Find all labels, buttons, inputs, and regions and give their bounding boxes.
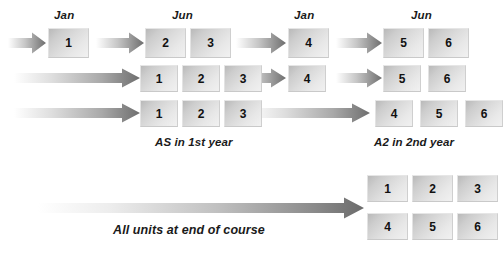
unit-box: 2 xyxy=(182,100,220,127)
unit-box: 4 xyxy=(288,65,326,92)
unit-box: 1 xyxy=(367,175,408,202)
caption-a2-second-year: A2 in 2nd year xyxy=(374,136,454,148)
unit-box: 4 xyxy=(375,100,413,127)
arrow-summary xyxy=(38,197,364,219)
arrow-row2-seg3 xyxy=(336,68,382,88)
unit-box: 5 xyxy=(412,213,453,240)
month-label-jun-1: Jun xyxy=(172,9,193,21)
unit-box: 2 xyxy=(145,28,186,58)
arrow-row3-seg2 xyxy=(248,103,370,123)
arrow-row2-seg1 xyxy=(14,68,140,88)
unit-box: 5 xyxy=(383,28,424,58)
unit-box: 3 xyxy=(457,175,498,202)
arrow-row3-seg1 xyxy=(14,103,140,123)
unit-box: 1 xyxy=(48,28,89,58)
unit-box: 5 xyxy=(383,65,421,92)
unit-box: 1 xyxy=(140,100,178,127)
arrow-row1-seg1 xyxy=(8,32,46,54)
arrow-row1-seg4 xyxy=(336,32,382,54)
unit-box: 6 xyxy=(465,100,503,127)
unit-box: 6 xyxy=(428,65,466,92)
unit-box: 4 xyxy=(367,213,408,240)
unit-box: 1 xyxy=(140,65,178,92)
month-label-jan-1: Jan xyxy=(54,9,74,21)
unit-box: 3 xyxy=(190,28,231,58)
caption-as-first-year: AS in 1st year xyxy=(155,136,232,148)
caption-all-units: All units at end of course xyxy=(113,223,265,237)
unit-box: 5 xyxy=(420,100,458,127)
month-label-jan-2: Jan xyxy=(294,9,314,21)
arrow-row1-seg2 xyxy=(96,32,144,54)
unit-box: 3 xyxy=(224,100,262,127)
arrow-row1-seg3 xyxy=(236,32,286,54)
month-label-jun-2: Jun xyxy=(411,9,432,21)
unit-box: 6 xyxy=(457,213,498,240)
unit-box: 4 xyxy=(288,28,329,58)
unit-box: 2 xyxy=(412,175,453,202)
unit-box: 6 xyxy=(428,28,469,58)
unit-box: 3 xyxy=(224,65,262,92)
unit-box: 2 xyxy=(182,65,220,92)
